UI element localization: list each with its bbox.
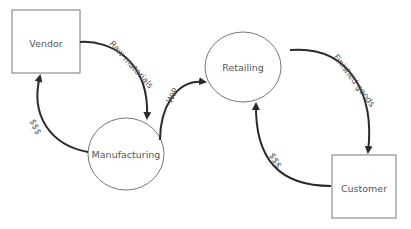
node-customer: Customer <box>332 155 396 218</box>
node-vendor-label: Vendor <box>29 38 62 49</box>
node-manufacturing-label: Manufacturing <box>92 149 161 160</box>
edge-wip <box>160 82 205 140</box>
node-vendor: Vendor <box>12 10 80 73</box>
node-manufacturing: Manufacturing <box>88 118 164 190</box>
node-retailing: Retailing <box>205 32 281 102</box>
edge-customer-payment <box>256 104 331 186</box>
edge-label-vendor-payment: $$$ <box>28 117 44 136</box>
edge-label-raw-materials: Raw materials <box>108 39 156 91</box>
edge-vendor-payment <box>37 76 88 152</box>
edge-finished-goods <box>290 50 369 152</box>
node-retailing-label: Retailing <box>222 62 264 73</box>
edge-label-finished-goods: Finished goods <box>331 52 377 109</box>
edge-raw-materials <box>80 42 147 118</box>
supply-chain-diagram: Vendor Manufacturing Retailing Customer … <box>0 0 411 229</box>
node-customer-label: Customer <box>341 183 387 194</box>
